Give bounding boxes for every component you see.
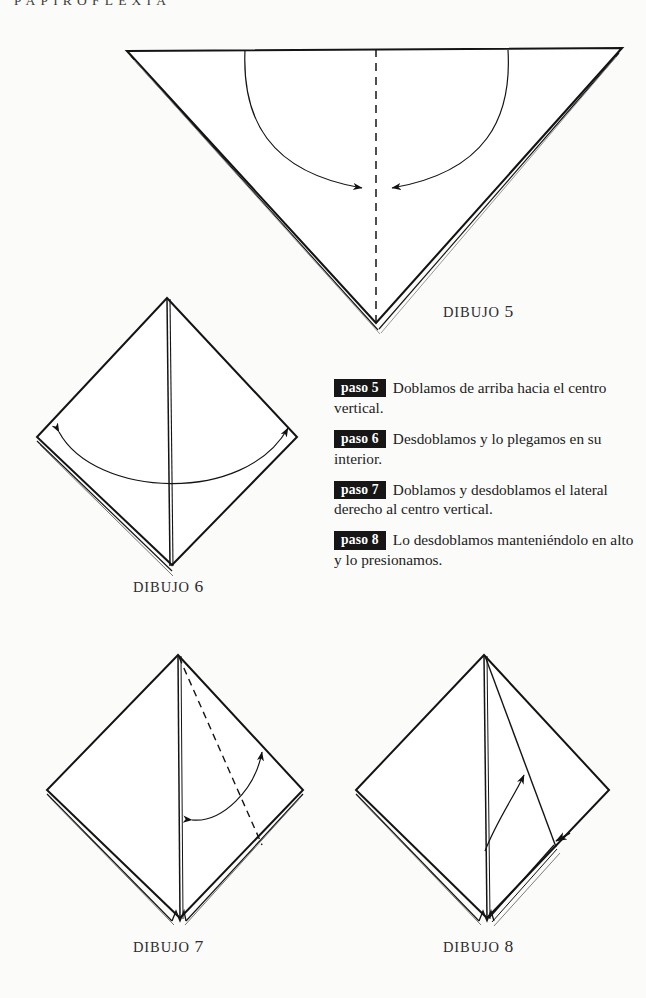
caption-word: DIBUJO <box>443 939 500 955</box>
figure-dibujo-8 <box>356 655 609 926</box>
step-item: paso 6Desdoblamos y lo plegamos en su in… <box>334 429 634 469</box>
step-item: paso 5Doblamos de arriba hacia el centro… <box>334 378 634 418</box>
caption-number: 6 <box>195 576 205 596</box>
caption-dibujo-8: DIBUJO 8 <box>443 936 514 957</box>
figure-dibujo-5 <box>127 48 622 334</box>
figure7-outline <box>47 655 303 918</box>
caption-dibujo-5: DIBUJO 5 <box>443 301 514 322</box>
instruction-page: PAPIROFLEXIA <box>0 0 646 998</box>
figure-dibujo-7 <box>47 655 303 925</box>
step-badge-paso-7: paso 7 <box>334 481 386 499</box>
step-item: paso 7Doblamos y desdoblamos el lateral … <box>334 480 634 520</box>
caption-word: DIBUJO <box>133 939 190 955</box>
figure5-outline <box>127 48 622 323</box>
caption-word: DIBUJO <box>133 579 190 595</box>
figure8-outline <box>356 655 609 918</box>
step-badge-paso-6: paso 6 <box>334 430 386 448</box>
step-badge-paso-5: paso 5 <box>334 379 386 397</box>
step-badge-paso-8: paso 8 <box>334 531 386 549</box>
steps-list: paso 5Doblamos de arriba hacia el centro… <box>334 378 634 581</box>
caption-dibujo-7: DIBUJO 7 <box>133 936 204 957</box>
caption-word: DIBUJO <box>443 304 500 320</box>
caption-number: 8 <box>505 936 515 956</box>
caption-number: 7 <box>195 936 205 956</box>
caption-number: 5 <box>505 301 515 321</box>
caption-dibujo-6: DIBUJO 6 <box>133 576 204 597</box>
figure-dibujo-6 <box>37 298 297 576</box>
step-item: paso 8Lo desdoblamos manteniéndolo en al… <box>334 530 634 570</box>
